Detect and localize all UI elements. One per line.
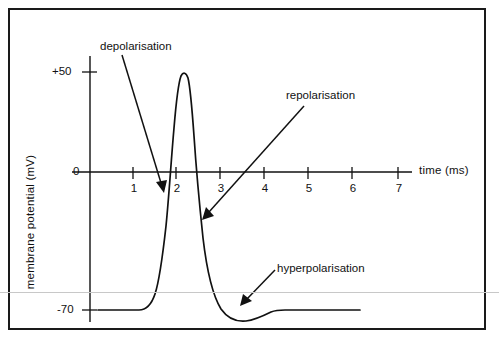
x-tick-label-5: 5	[303, 183, 315, 195]
x-tick-label-6: 6	[347, 183, 359, 195]
hyperpolarisation-leader	[246, 270, 275, 300]
depolarisation-leader	[122, 55, 161, 183]
repolarisation-leader	[209, 106, 304, 212]
x-tick-label-2: 2	[171, 183, 183, 195]
annotation-repolarisation: repolarisation	[286, 90, 355, 102]
y-tick-label-neg70: -70	[57, 304, 74, 316]
y-tick-label-plus50: +50	[52, 66, 72, 78]
y-tick-label-zero: 0	[73, 166, 79, 178]
action-potential-figure: membrane potential (mV) +50 0 -70 1 2 3 …	[0, 0, 499, 339]
y-axis-label: membrane potential (mV)	[24, 142, 36, 302]
x-tick-label-7: 7	[393, 183, 405, 195]
action-potential-curve-group	[98, 73, 360, 321]
x-tick-label-4: 4	[259, 183, 271, 195]
annotation-hyperpolarisation: hyperpolarisation	[277, 263, 365, 275]
axes-group	[72, 56, 412, 322]
x-tick-label-1: 1	[128, 183, 140, 195]
annotation-depolarisation: depolarisation	[100, 41, 172, 53]
depolarisation-arrowhead	[156, 180, 167, 193]
x-axis-label: time (ms)	[419, 165, 469, 177]
scan-artifact-line	[0, 292, 499, 293]
x-tick-label-3: 3	[215, 183, 227, 195]
action-potential-curve	[98, 73, 360, 321]
